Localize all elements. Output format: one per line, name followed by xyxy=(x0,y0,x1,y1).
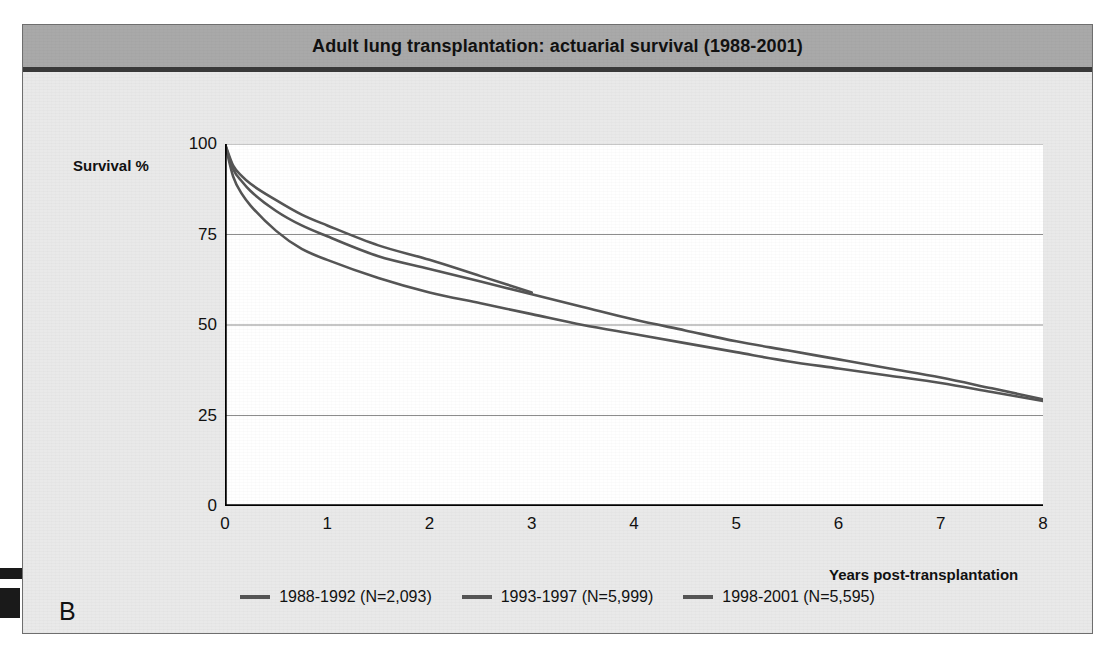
y-tick-label-75: 75 xyxy=(177,225,217,245)
legend-item-1988-1992: 1988-1992 (N=2,093) xyxy=(240,588,432,606)
legend-item-1998-2001: 1998-2001 (N=5,595) xyxy=(683,588,875,606)
legend-item-1993-1997: 1993-1997 (N=5,999) xyxy=(462,588,654,606)
y-tick-label-50: 50 xyxy=(177,315,217,335)
y-tick-label-25: 25 xyxy=(177,406,217,426)
title-bar: Adult lung transplantation: actuarial su… xyxy=(23,25,1092,72)
legend-label: 1998-2001 (N=5,595) xyxy=(722,588,875,606)
x-tick-label-0: 0 xyxy=(210,514,240,534)
chart-title: Adult lung transplantation: actuarial su… xyxy=(312,36,803,57)
x-tick-label-5: 5 xyxy=(721,514,751,534)
legend-line-icon xyxy=(683,595,713,599)
legend-label: 1988-1992 (N=2,093) xyxy=(279,588,432,606)
x-axis-tick-labels: 012345678 xyxy=(225,514,1043,538)
legend-line-icon xyxy=(462,595,492,599)
page-edge-artifact-top xyxy=(0,568,22,579)
x-tick-label-1: 1 xyxy=(312,514,342,534)
y-axis-title: Survival % xyxy=(73,157,149,174)
plot-area xyxy=(225,144,1043,506)
x-tick-label-7: 7 xyxy=(926,514,956,534)
x-tick-label-4: 4 xyxy=(619,514,649,534)
survival-curves-svg xyxy=(225,144,1043,506)
legend: 1988-1992 (N=2,093)1993-1997 (N=5,999)19… xyxy=(23,588,1092,606)
x-tick-label-8: 8 xyxy=(1028,514,1058,534)
x-tick-label-2: 2 xyxy=(415,514,445,534)
page-edge-artifact-bottom xyxy=(0,588,20,618)
panel-label: B xyxy=(59,597,76,626)
legend-line-icon xyxy=(240,595,270,599)
x-axis-title: Years post-transplantation xyxy=(829,566,1018,583)
y-tick-label-0: 0 xyxy=(177,496,217,516)
x-tick-label-6: 6 xyxy=(824,514,854,534)
x-tick-label-3: 3 xyxy=(517,514,547,534)
y-tick-label-100: 100 xyxy=(177,134,217,154)
y-axis-tick-labels: 0255075100 xyxy=(173,144,217,506)
figure-frame: Adult lung transplantation: actuarial su… xyxy=(22,24,1093,634)
legend-label: 1993-1997 (N=5,999) xyxy=(501,588,654,606)
